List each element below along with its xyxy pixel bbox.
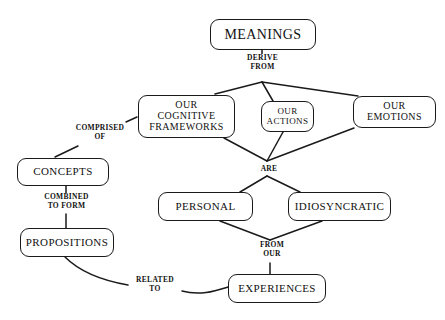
node-label-line: PROPOSITIONS — [26, 237, 108, 249]
link-label-from-our: FROMOUR — [252, 241, 292, 258]
concept-map-canvas: MEANINGSOURCOGNITIVEFRAMEWORKSOURACTIONS… — [0, 0, 445, 320]
connector-frameworks-to-are — [224, 138, 267, 161]
link-label-combined-to-form: COMBINEDTO FORM — [35, 193, 98, 210]
connector-fan-to-frameworks — [215, 82, 262, 94]
node-label-line: EXPERIENCES — [238, 283, 316, 295]
connector-frameworks-to-comprised — [126, 117, 137, 122]
link-label-line: TO FORM — [35, 202, 98, 211]
connector-related-to-experiences — [182, 287, 228, 293]
link-label-line: FROM — [234, 63, 291, 72]
link-label-comprised-of: COMPRISEDOF — [70, 124, 130, 141]
node-label-line: PERSONAL — [175, 201, 235, 213]
node-emotions[interactable]: OUREMOTIONS — [353, 96, 436, 128]
node-propositions[interactable]: PROPOSITIONS — [20, 228, 114, 257]
node-label-line: ACTIONS — [267, 117, 309, 127]
link-label-are: ARE — [256, 165, 282, 174]
node-personal[interactable]: PERSONAL — [158, 192, 253, 221]
connector-emotions-to-are — [267, 128, 354, 161]
link-label-derive-from: DERIVEFROM — [234, 54, 291, 71]
link-label-line: TO — [130, 285, 180, 294]
connector-fan-to-emotions — [262, 82, 358, 96]
connector-actions-to-are — [267, 132, 283, 161]
connector-are-to-idiosyncratic — [267, 176, 300, 192]
node-idiosyncratic[interactable]: IDIOSYNCRATIC — [288, 192, 391, 221]
connector-idiosyncratic-to-fromour — [270, 221, 322, 240]
connector-fan-to-actions — [262, 82, 273, 101]
node-label-line: CONCEPTS — [33, 166, 92, 178]
node-label-line: MEANINGS — [224, 27, 301, 42]
node-experiences[interactable]: EXPERIENCES — [228, 274, 326, 303]
link-label-line: OUR — [252, 250, 292, 259]
link-label-line: ARE — [256, 165, 282, 174]
connector-comprised-to-concepts — [55, 146, 78, 157]
node-label-line: EMOTIONS — [367, 112, 422, 123]
node-actions[interactable]: OURACTIONS — [261, 101, 314, 132]
node-meanings[interactable]: MEANINGS — [210, 19, 316, 50]
connector-personal-to-fromour — [220, 221, 270, 240]
node-concepts[interactable]: CONCEPTS — [17, 158, 109, 186]
node-cognitive-frameworks[interactable]: OURCOGNITIVEFRAMEWORKS — [138, 95, 235, 138]
node-label-line: FRAMEWORKS — [149, 122, 224, 133]
node-label-line: IDIOSYNCRATIC — [295, 201, 385, 213]
link-label-related-to: RELATEDTO — [130, 276, 180, 293]
connector-are-to-personal — [240, 176, 267, 192]
link-label-line: OF — [70, 133, 130, 142]
connector-propositions-to-related — [65, 257, 128, 285]
